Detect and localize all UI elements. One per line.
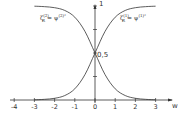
x-tick-label: 3 bbox=[154, 104, 158, 111]
label-sub: R bbox=[42, 18, 45, 23]
y-label-0-5: 0,5 bbox=[97, 52, 108, 59]
x-tick-label: -3 bbox=[31, 104, 37, 111]
label-rhs: = ψ bbox=[127, 14, 139, 21]
x-tick-label: -1 bbox=[72, 104, 78, 111]
label-rhs: = ψ bbox=[47, 14, 59, 21]
curve-label-zeta1: ζ(1)R = ψ(1)² bbox=[120, 14, 146, 23]
x-tick-label: 0 bbox=[93, 104, 97, 111]
x-tick-label: 2 bbox=[133, 104, 137, 111]
label-rhs-sup: (1)² bbox=[139, 13, 146, 18]
y-label-1: 1 bbox=[99, 1, 103, 8]
x-tick-label: 1 bbox=[113, 104, 117, 111]
x-tick-label: -2 bbox=[51, 104, 57, 111]
label-rhs-sup: (2)² bbox=[59, 13, 66, 18]
y-axis-arrow-icon bbox=[94, 4, 97, 9]
x-tick-label: -4 bbox=[11, 104, 17, 111]
curve-label-zeta2: ζ(2)R = ψ(2)² bbox=[40, 14, 66, 23]
x-axis-label: w bbox=[172, 103, 178, 110]
label-sub: R bbox=[122, 18, 125, 23]
